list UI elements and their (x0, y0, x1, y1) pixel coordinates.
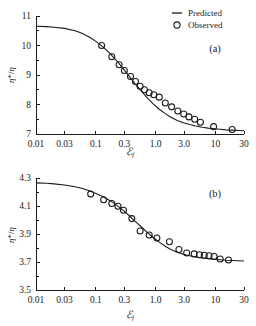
observed-data-point (166, 239, 172, 245)
y-tick-labels-b: 3.53.73.94.14.3 (19, 173, 31, 295)
svg-text:η*/η: η*/η (6, 226, 16, 242)
x-tick-label: 0.01 (28, 139, 45, 149)
y-axis-title-a: η*/η (6, 66, 16, 82)
x-tick-labels-a: 0.010.030.10.31.03.01030 (28, 139, 249, 149)
y-tick-label: 4.3 (19, 173, 31, 183)
circle-marker-icon (174, 22, 180, 28)
observed-points-b (88, 191, 232, 263)
observed-points-a (99, 43, 236, 133)
observed-data-point (197, 119, 203, 125)
x-tick-label: 0.01 (28, 295, 45, 305)
axes-a (36, 16, 244, 134)
observed-data-point (217, 256, 223, 262)
x-tick-label: 10 (211, 139, 221, 149)
predicted-line (36, 26, 244, 130)
y-tick-label: 3.5 (19, 285, 31, 295)
y-tick-label: 10 (22, 41, 32, 51)
observed-data-point (186, 114, 192, 120)
observed-data-point (169, 104, 175, 110)
chart-panel-b: 0.010.030.10.31.03.01030 3.53.73.94.14.3… (0, 163, 256, 326)
x-tick-label: 1.0 (150, 295, 162, 305)
x-tick-label: 0.3 (118, 295, 130, 305)
y-tick-label: 7 (26, 129, 31, 139)
y-tick-label: 9 (26, 70, 31, 80)
observed-data-point (88, 191, 94, 197)
chart-panel-a: 0.010.030.10.31.03.01030 7891011 ℰf η*/η… (0, 0, 256, 163)
y-tick-label: 3.7 (19, 257, 31, 267)
x-tick-labels-b: 0.010.030.10.31.03.01030 (28, 295, 249, 305)
observed-data-point (116, 62, 122, 68)
x-tick-label: 30 (239, 295, 249, 305)
observed-data-point (137, 228, 143, 234)
y-tick-label: 8 (26, 100, 31, 110)
legend-label-predicted: Predicted (188, 8, 222, 18)
observed-data-point (156, 94, 162, 100)
y-tick-label: 3.9 (19, 229, 31, 239)
svg-text:η*/η: η*/η (6, 66, 16, 82)
x-tick-label: 0.1 (90, 295, 102, 305)
x-tick-label: 0.03 (56, 295, 73, 305)
observed-data-point (175, 108, 181, 114)
x-tick-label: 30 (239, 139, 249, 149)
panel-tag-a: (a) (209, 43, 221, 55)
x-tick-label: 10 (211, 295, 221, 305)
observed-data-point (192, 116, 198, 122)
x-axis-title-a: ℰf (126, 146, 135, 159)
x-tick-label: 0.03 (56, 139, 73, 149)
x-tick-label: 3.0 (178, 139, 190, 149)
x-tick-label: 3.0 (178, 295, 190, 305)
observed-data-point (162, 100, 168, 106)
observed-data-point (176, 246, 182, 252)
plot-a-svg: 0.010.030.10.31.03.01030 7891011 ℰf η*/η… (0, 0, 256, 163)
panel-tag-b: (b) (209, 188, 222, 200)
x-axis-title-b: ℰf (126, 309, 135, 322)
y-tick-label: 11 (22, 11, 31, 21)
x-tick-label: 0.1 (90, 139, 102, 149)
y-axis-title-b: η*/η (6, 226, 16, 242)
observed-data-point (109, 54, 115, 60)
figure-container: 0.010.030.10.31.03.01030 7891011 ℰf η*/η… (0, 0, 256, 326)
y-tick-label: 4.1 (19, 201, 31, 211)
y-tick-labels-a: 7891011 (22, 11, 32, 139)
x-tick-label: 1.0 (150, 139, 162, 149)
predicted-curve-a (36, 26, 244, 130)
plot-b-svg: 0.010.030.10.31.03.01030 3.53.73.94.14.3… (0, 163, 256, 326)
observed-data-point (146, 232, 152, 238)
legend-a: Predicted Observed (172, 8, 223, 30)
legend-label-observed: Observed (188, 20, 223, 30)
